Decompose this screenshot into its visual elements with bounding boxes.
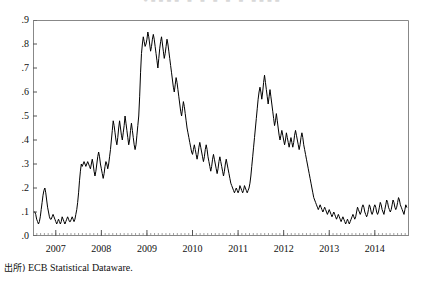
y-tick-label: .9 — [7, 15, 29, 25]
y-tick-label: .3 — [7, 159, 29, 169]
x-tick-label: 2014 — [353, 244, 397, 254]
clipped-header-text: ●■■■■ ■ ■ ■ ■ ■ ■■■■ — [0, 0, 426, 4]
x-tick-label: 2007 — [34, 244, 78, 254]
source-text: ECB Statistical Dataware. — [28, 262, 133, 273]
y-tick-label: .6 — [7, 87, 29, 97]
source-note: 出所) ECB Statistical Dataware. — [4, 262, 133, 274]
y-tick-label: .4 — [7, 135, 29, 145]
y-tick-label: .2 — [7, 183, 29, 193]
y-tick-label: .8 — [7, 39, 29, 49]
y-tick-label: .1 — [7, 207, 29, 217]
plot-frame — [34, 21, 409, 237]
x-tick-label: 2008 — [79, 244, 123, 254]
y-tick-label: .7 — [7, 63, 29, 73]
data-series-line-0 — [35, 32, 407, 224]
y-tick-label: .5 — [7, 111, 29, 121]
y-tick-label: .0 — [7, 231, 29, 241]
line-chart — [33, 20, 409, 236]
figure-container: ●■■■■ ■ ■ ■ ■ ■ ■■■■ .0.1.2.3.4.5.6.7.8.… — [0, 0, 426, 282]
plot-area — [33, 20, 409, 236]
x-tick-label: 2011 — [216, 244, 260, 254]
x-tick-label: 2009 — [125, 244, 169, 254]
x-tick-label: 2010 — [171, 244, 215, 254]
x-tick-label: 2013 — [307, 244, 351, 254]
x-tick-label: 2012 — [262, 244, 306, 254]
source-prefix: 出所) — [4, 263, 26, 273]
